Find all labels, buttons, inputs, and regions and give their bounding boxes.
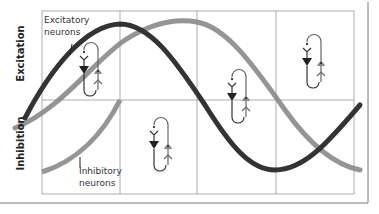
circuit-icon-3 — [227, 70, 250, 124]
circuit-icon-2 — [149, 118, 172, 172]
inhibitory-label-line2: neurons — [79, 177, 122, 189]
inhibitory-label-line1: Inhibitory — [79, 165, 122, 177]
excitation-axis-label: Excitation — [15, 24, 26, 84]
excitatory-curve — [25, 24, 360, 170]
excitatory-label-line2: neurons — [44, 26, 89, 38]
circuit-icon-4 — [302, 35, 325, 89]
excitatory-label-line1: Excitatory — [44, 14, 89, 26]
excitatory-label: Excitatory neurons — [44, 14, 89, 38]
neuron-oscillation-diagram: Excitatory neurons Inhibitory neurons Ex… — [0, 0, 379, 214]
inhibition-axis-label: Inhibition — [15, 116, 26, 172]
inhibitory-curve — [15, 21, 360, 170]
inhibitory-label: Inhibitory neurons — [79, 165, 122, 189]
